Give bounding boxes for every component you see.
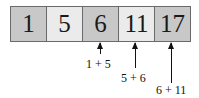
arrow-up-icon	[135, 43, 136, 68]
arrow-up-icon	[100, 43, 101, 54]
array-cell: 5	[47, 7, 83, 41]
prefix-sum-array: 1 5 6 11 17	[10, 6, 191, 42]
array-cell: 17	[155, 7, 190, 41]
annotation-label: 1 + 5	[86, 57, 111, 72]
array-cell: 11	[119, 7, 155, 41]
array-cell: 6	[83, 7, 119, 41]
arrow-up-icon	[171, 43, 172, 83]
annotation-label: 5 + 6	[121, 71, 146, 86]
array-cell: 1	[11, 7, 47, 41]
annotation-label: 6 + 11	[156, 83, 186, 98]
